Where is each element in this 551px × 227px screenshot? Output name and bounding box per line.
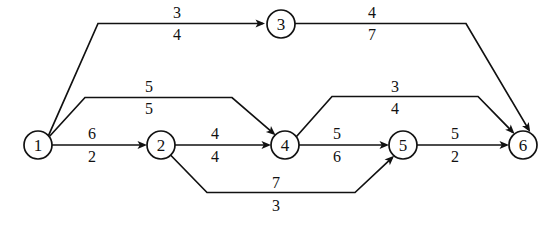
edge-label-cost-4-5: 6: [333, 148, 341, 165]
edge-label-cost-1-3: 4: [173, 26, 181, 43]
nodes-layer: 123456: [24, 10, 537, 159]
arrowheads-layer: [138, 20, 534, 166]
edge-label-capacity-4-5: 5: [333, 125, 341, 142]
node-1: 1: [24, 131, 52, 159]
node-label-4: 4: [281, 136, 290, 155]
edge-label-cost-3-6: 7: [368, 26, 376, 43]
network-diagram-canvas: 344755624434567352 123456: [0, 0, 551, 227]
edge-label-capacity-5-6: 5: [451, 125, 459, 142]
edge-label-capacity-2-5: 7: [272, 174, 280, 191]
edge-label-capacity-1-3: 3: [173, 4, 181, 21]
node-label-2: 2: [157, 136, 166, 155]
node-label-5: 5: [399, 136, 408, 155]
network-graph-svg: 344755624434567352 123456: [0, 0, 551, 227]
edge-label-capacity-1-4: 5: [145, 78, 153, 95]
node-label-1: 1: [34, 136, 43, 155]
edge-1-to-3: [49, 24, 263, 136]
node-6: 6: [509, 131, 537, 159]
node-label-6: 6: [519, 136, 528, 155]
edge-label-capacity-3-6: 4: [368, 4, 376, 21]
node-2: 2: [147, 131, 175, 159]
edge-label-cost-2-4: 4: [211, 148, 219, 165]
edge-label-cost-4-6: 4: [391, 100, 399, 117]
node-4: 4: [271, 131, 299, 159]
edge-label-capacity-2-4: 4: [211, 125, 219, 142]
node-3: 3: [267, 10, 295, 38]
edge-label-capacity-4-6: 3: [391, 78, 399, 95]
node-5: 5: [389, 131, 417, 159]
edge-2-to-5: [171, 155, 393, 193]
edge-label-cost-5-6: 2: [451, 148, 459, 165]
edge-label-cost-1-4: 5: [145, 100, 153, 117]
edge-label-cost-2-5: 3: [272, 197, 280, 214]
edge-label-cost-1-2: 2: [88, 148, 96, 165]
edges-layer: [49, 24, 529, 193]
edge-label-capacity-1-2: 6: [88, 125, 96, 142]
node-label-3: 3: [277, 15, 286, 34]
